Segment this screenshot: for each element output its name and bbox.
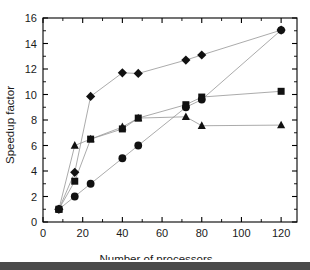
x-tick-label: 20: [77, 227, 89, 239]
data-point-square: [71, 178, 78, 185]
data-point-diamond: [118, 68, 127, 77]
data-point-diamond: [70, 168, 79, 177]
data-point-diamond: [197, 50, 206, 59]
footer-bar: [0, 262, 310, 270]
y-axis-title: Speedup factor: [4, 86, 16, 164]
figure-container: 0204060801001200246810121416 Number of p…: [0, 0, 310, 270]
x-tick-label: 60: [156, 227, 168, 239]
y-tick-label: 10: [25, 89, 37, 101]
data-point-diamond: [134, 69, 143, 78]
data-point-circle: [277, 26, 285, 34]
data-point-diamond: [86, 92, 95, 101]
data-point-triangle: [277, 121, 285, 129]
y-tick-label: 14: [25, 38, 37, 50]
data-point-circle: [198, 96, 206, 104]
data-point-circle: [134, 142, 142, 150]
y-tick-label: 4: [31, 165, 37, 177]
y-tick-label: 16: [25, 12, 37, 24]
series-line-square: [59, 91, 281, 209]
data-point-circle: [118, 154, 126, 162]
y-tick-label: 0: [31, 216, 37, 228]
x-tick-label: 80: [196, 227, 208, 239]
x-tick-label: 0: [40, 227, 46, 239]
y-tick-label: 8: [31, 114, 37, 126]
data-point-triangle: [198, 121, 206, 129]
speedup-chart: 0204060801001200246810121416 Number of p…: [0, 0, 310, 270]
series-line-triangle: [59, 117, 281, 209]
data-point-triangle: [182, 112, 190, 120]
x-tick-label: 40: [116, 227, 128, 239]
data-point-circle: [71, 193, 79, 201]
data-point-circle: [87, 180, 95, 188]
data-point-diamond: [181, 55, 190, 64]
data-point-circle: [182, 103, 190, 111]
x-tick-label: 120: [272, 227, 290, 239]
y-tick-label: 6: [31, 140, 37, 152]
data-point-triangle: [71, 141, 79, 149]
x-tick-label: 100: [232, 227, 250, 239]
data-point-square: [278, 88, 285, 95]
y-tick-label: 12: [25, 63, 37, 75]
y-tick-label: 2: [31, 191, 37, 203]
